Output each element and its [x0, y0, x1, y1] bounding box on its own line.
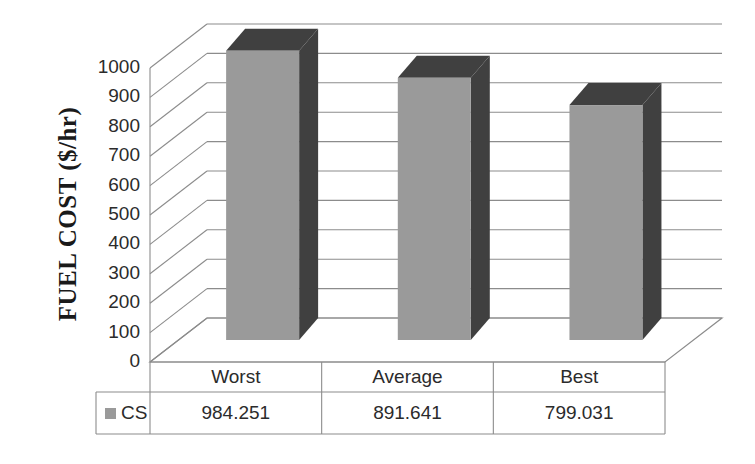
table-value-worst: 984.251: [150, 392, 322, 434]
fuel-cost-3d-bar-chart: FUEL COST ($/hr) 10009008007006005004003…: [0, 0, 755, 464]
bar-average: [398, 56, 490, 340]
bar-side-face: [299, 29, 318, 340]
legend-entry-cs: CS: [96, 392, 150, 434]
bar-front-face: [226, 51, 299, 340]
legend-label: CS: [121, 402, 147, 424]
table-header-best: Best: [493, 362, 665, 392]
table-header-worst: Worst: [150, 362, 322, 392]
depth-line-600: [150, 142, 207, 186]
bar-front-face: [569, 105, 642, 340]
depth-line-1000: [150, 24, 207, 68]
bar-side-face: [471, 56, 490, 340]
bar-front-face: [398, 78, 471, 340]
depth-line-700: [150, 112, 207, 156]
depth-line-100: [150, 289, 207, 333]
depth-line-900: [150, 53, 207, 97]
depth-line-500: [150, 171, 207, 215]
table-value-best: 799.031: [493, 392, 665, 434]
table-value-average: 891.641: [322, 392, 494, 434]
depth-line-200: [150, 259, 207, 303]
depth-line-400: [150, 200, 207, 244]
bars-group: [226, 29, 661, 340]
bar-best: [569, 83, 661, 340]
bar-side-face: [642, 83, 661, 340]
table-header-average: Average: [322, 362, 494, 392]
bar-worst: [226, 29, 318, 340]
depth-line-300: [150, 230, 207, 274]
depth-line-800: [150, 83, 207, 127]
legend-swatch-icon: [105, 408, 116, 419]
